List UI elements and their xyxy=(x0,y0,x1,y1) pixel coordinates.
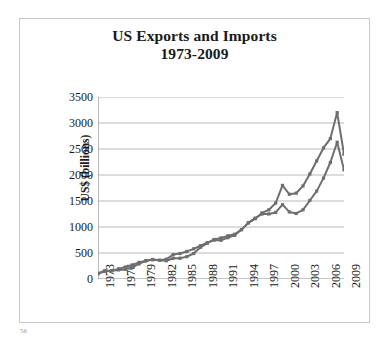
data-point-marker xyxy=(192,252,195,255)
chart-figure-frame: US Exports and Imports 1973-2009 US$ (bi… xyxy=(19,18,370,323)
series-line-imports xyxy=(98,113,344,274)
y-axis-tick-label: 2500 xyxy=(69,142,93,157)
y-axis-tick-label: 1500 xyxy=(69,194,93,209)
data-point-marker xyxy=(308,172,311,175)
y-axis-tick-label: 3000 xyxy=(69,116,93,131)
data-point-marker xyxy=(103,270,106,273)
data-point-marker xyxy=(151,258,154,261)
y-axis-tick-label: 3500 xyxy=(69,90,93,105)
data-point-marker xyxy=(267,212,270,215)
data-point-marker xyxy=(301,184,304,187)
data-point-marker xyxy=(185,255,188,258)
data-point-marker xyxy=(342,168,344,171)
data-series-layer xyxy=(98,111,344,275)
data-point-marker xyxy=(226,234,229,237)
data-point-marker xyxy=(137,262,140,265)
data-point-marker xyxy=(288,193,291,196)
series-line-exports xyxy=(98,142,344,274)
gridlines xyxy=(98,97,344,279)
data-point-marker xyxy=(117,268,120,271)
chart-title-line-1: US Exports and Imports xyxy=(20,27,369,45)
page-number: 56 xyxy=(20,327,27,335)
data-point-marker xyxy=(199,246,202,249)
chart-title: US Exports and Imports 1973-2009 xyxy=(20,27,369,63)
data-point-marker xyxy=(192,247,195,250)
data-point-marker xyxy=(322,146,325,149)
data-point-marker xyxy=(336,141,339,144)
data-point-marker xyxy=(308,199,311,202)
plot-area: US$ (billions) 0500100015002000250030003… xyxy=(98,97,344,279)
data-point-marker xyxy=(233,233,236,236)
data-point-marker xyxy=(178,252,181,255)
data-point-marker xyxy=(274,201,277,204)
data-point-marker xyxy=(336,111,339,114)
data-point-marker xyxy=(301,208,304,211)
data-point-marker xyxy=(172,257,175,260)
data-point-marker xyxy=(260,212,263,215)
data-point-marker xyxy=(240,228,243,231)
data-point-marker xyxy=(329,137,332,140)
data-point-marker xyxy=(124,268,127,271)
data-point-marker xyxy=(144,259,147,262)
y-axis-tick-label: 500 xyxy=(75,246,93,261)
data-point-marker xyxy=(295,192,298,195)
chart-plot-svg xyxy=(98,97,344,279)
y-axis-tick-label: 1000 xyxy=(69,220,93,235)
data-point-marker xyxy=(131,266,134,269)
x-axis-tick-label: 2009 xyxy=(349,264,364,288)
data-point-marker xyxy=(158,259,161,262)
data-point-marker xyxy=(342,153,344,156)
data-point-marker xyxy=(206,242,209,245)
data-point-marker xyxy=(295,212,298,215)
data-point-marker xyxy=(281,184,284,187)
data-point-marker xyxy=(322,177,325,180)
data-point-marker xyxy=(288,210,291,213)
data-point-marker xyxy=(110,269,113,272)
data-point-marker xyxy=(315,190,318,193)
y-axis-tick-label: 0 xyxy=(87,272,93,287)
data-point-marker xyxy=(213,238,216,241)
data-point-marker xyxy=(185,250,188,253)
data-point-marker xyxy=(98,272,100,275)
data-point-marker xyxy=(165,259,168,262)
data-point-marker xyxy=(281,203,284,206)
chart-title-line-2: 1973-2009 xyxy=(20,45,369,63)
data-point-marker xyxy=(219,236,222,239)
data-point-marker xyxy=(315,159,318,162)
data-point-marker xyxy=(329,161,332,164)
data-point-marker xyxy=(178,257,181,260)
data-point-marker xyxy=(172,253,175,256)
data-point-marker xyxy=(254,217,257,220)
data-point-marker xyxy=(267,208,270,211)
data-point-marker xyxy=(247,221,250,224)
y-axis-tick-label: 2000 xyxy=(69,168,93,183)
data-point-marker xyxy=(274,211,277,214)
